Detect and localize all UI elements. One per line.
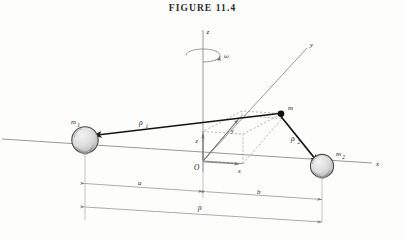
- x-component-label: x: [237, 167, 241, 174]
- dimension-a-label: a: [138, 179, 142, 187]
- dimension-a-group: a: [85, 179, 203, 192]
- point-mass-m-group: m: [278, 104, 293, 118]
- physics-diagram: z ω x y: [0, 0, 405, 240]
- dimension-b-label: b: [257, 188, 261, 196]
- rho1-vector-group: ρ 1: [93, 114, 279, 136]
- dimension-rho-line: [85, 207, 322, 222]
- rho1-label: ρ: [138, 118, 143, 127]
- rho2-subscript: 2: [298, 139, 301, 145]
- rho1-subscript: 1: [146, 123, 149, 129]
- dimension-a-line: [85, 184, 203, 192]
- mass-m-label: m: [288, 104, 293, 112]
- dimension-b-line: [206, 192, 322, 200]
- y-component-label: y: [230, 127, 234, 134]
- rho2-vector-group: ρ 2: [281, 117, 319, 164]
- y-component-arrow: [203, 120, 238, 162]
- figure-page: FIGURE 11.4: [0, 0, 405, 240]
- dimension-b-group: b: [206, 188, 322, 200]
- mass-m2-group: m 2: [310, 150, 345, 179]
- omega-label: ω: [224, 52, 229, 59]
- mass-m2-label: m: [336, 150, 341, 158]
- figure-canvas: z ω x y: [0, 0, 405, 240]
- mass-m1-sphere: [72, 127, 98, 153]
- omega-arrow: [203, 56, 220, 62]
- projection-box: [203, 111, 282, 164]
- extension-lines: [85, 152, 322, 222]
- z-component-label: z: [195, 137, 199, 144]
- y-axis-label: y: [309, 41, 314, 49]
- mass-m2-sphere: [310, 154, 333, 177]
- mass-m2-subscript: 2: [342, 154, 345, 160]
- dimension-rho-label: ρ: [197, 203, 202, 212]
- mass-m1-group: m 1: [71, 118, 98, 154]
- mass-m1-label: m: [71, 118, 76, 126]
- z-axis-label: z: [206, 28, 210, 36]
- x-axis-label: x: [375, 160, 380, 168]
- rho1-vector: [93, 114, 279, 136]
- dimension-rho-group: ρ: [85, 203, 322, 222]
- mass-m1-subscript: 1: [77, 122, 80, 128]
- angular-velocity-group: ω: [186, 49, 229, 62]
- origin-label: O: [194, 163, 200, 172]
- point-mass-m: [278, 111, 285, 118]
- rho2-label: ρ: [290, 134, 295, 143]
